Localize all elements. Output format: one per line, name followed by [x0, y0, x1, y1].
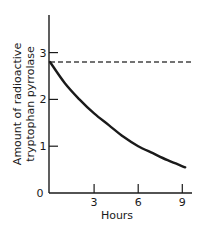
y-tick-label: 3 — [40, 47, 47, 60]
y-tick-label: 1 — [40, 140, 47, 153]
y-axis-title-line2: tryptophan pyrrolase — [24, 46, 37, 162]
x-tick-label: 3 — [91, 196, 98, 209]
x-axis-title: Hours — [101, 209, 133, 222]
x-ticks: 369 — [91, 184, 186, 209]
decay-curve — [50, 62, 185, 167]
y-axis-title: Amount of radioactive tryptophan pyrrola… — [11, 43, 37, 166]
origin-label: 0 — [37, 187, 44, 200]
x-tick-label: 6 — [135, 196, 142, 209]
y-tick-label: 2 — [40, 93, 47, 106]
x-tick-label: 9 — [179, 196, 186, 209]
axes — [49, 15, 192, 193]
y-axis-title-line1: Amount of radioactive — [11, 43, 24, 166]
decay-chart: 123 369 0 Hours Amount of radioactive tr… — [0, 0, 204, 229]
